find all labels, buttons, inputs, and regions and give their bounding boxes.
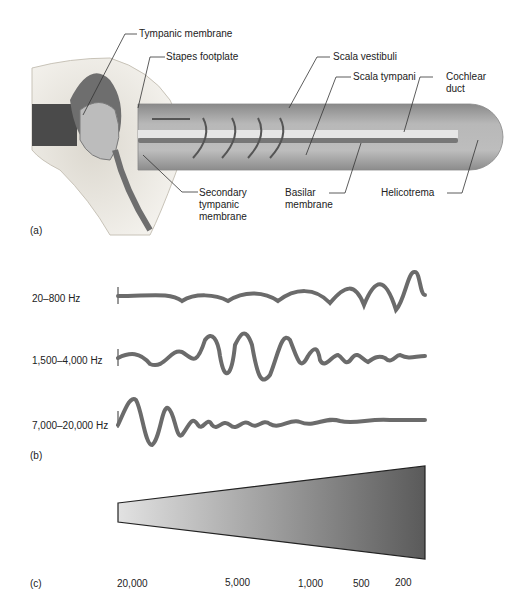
wave-label-mid: 1,500–4,000 Hz <box>32 355 103 367</box>
panel-c-letter: (c) <box>30 578 42 590</box>
tick-20000: 20,000 <box>117 578 148 590</box>
label-secondary-tympanic-membrane-3: membrane <box>199 211 247 223</box>
tick-1000: 1,000 <box>298 578 323 590</box>
label-stapes-footplate: Stapes footplate <box>166 51 238 63</box>
label-basilar-membrane-2: membrane <box>285 199 333 211</box>
traveling-waves <box>118 272 425 445</box>
basilar-membrane-taper <box>118 466 425 559</box>
label-basilar-membrane: Basilar <box>285 187 316 199</box>
label-secondary-tympanic-membrane-2: tympanic <box>199 199 239 211</box>
label-tympanic-membrane: Tympanic membrane <box>139 28 232 40</box>
label-secondary-tympanic-membrane: Secondary <box>199 187 247 199</box>
label-cochlear-duct: Cochlear <box>446 71 486 83</box>
label-helicotrema: Helicotrema <box>381 187 434 199</box>
tick-200: 200 <box>395 577 412 589</box>
panel-b-letter: (b) <box>30 450 42 462</box>
cochlea-tube <box>138 104 503 170</box>
wave-label-high: 7,000–20,000 Hz <box>32 420 108 432</box>
label-cochlear-duct-2: duct <box>446 83 465 95</box>
tick-500: 500 <box>353 578 370 590</box>
label-scala-vestibuli: Scala vestibuli <box>333 51 397 63</box>
label-scala-tympani: Scala tympani <box>353 71 416 83</box>
wave-label-low: 20–800 Hz <box>32 293 80 305</box>
tick-5000: 5,000 <box>225 577 250 589</box>
panel-a-letter: (a) <box>30 225 42 237</box>
